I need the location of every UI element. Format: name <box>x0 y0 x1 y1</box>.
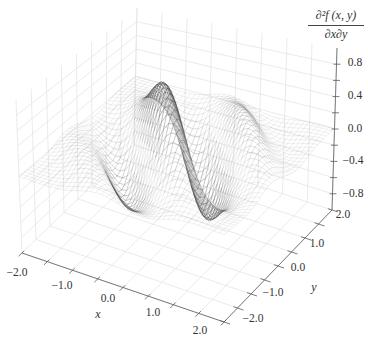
fraction-bar <box>308 25 364 26</box>
z-tick-label: 0.0 <box>348 123 362 135</box>
z-tick-label: −0.8 <box>343 188 364 200</box>
z-label-denominator: ∂x∂y <box>306 27 366 41</box>
z-tick-label: 0.8 <box>348 57 362 69</box>
surface-chart: −2.0 −1.0 0.0 1.0 2.0 x −2.0 −1.0 0.0 1.… <box>0 0 368 343</box>
z-tick-label: −0.4 <box>343 155 364 167</box>
x-tick-label: −2.0 <box>7 267 28 279</box>
y-tick-label: 2.0 <box>336 209 350 221</box>
y-tick-label: 0.0 <box>291 262 305 274</box>
z-axis-label: ∂²f (x, y) ∂x∂y <box>306 8 366 41</box>
back-panes <box>16 8 337 322</box>
y-tick-label: −2.0 <box>243 313 264 325</box>
x-tick-label: 0.0 <box>101 293 115 305</box>
z-label-numerator: ∂²f (x, y) <box>306 8 366 23</box>
x-axis-label: x <box>95 308 100 320</box>
x-tick-label: 1.0 <box>146 307 160 319</box>
x-tick-label: 2.0 <box>193 325 207 337</box>
x-tick-label: −1.0 <box>52 280 73 292</box>
z-tick-label: 0.4 <box>348 90 362 102</box>
y-tick-label: −1.0 <box>263 287 284 299</box>
y-tick-label: 1.0 <box>310 238 324 250</box>
y-axis-label: y <box>311 281 316 293</box>
